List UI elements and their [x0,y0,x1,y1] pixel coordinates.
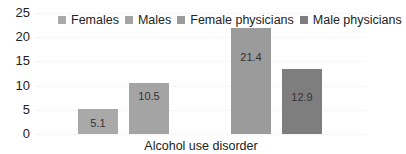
y-tick-15: 15 [0,54,30,68]
legend-label: Male physicians [313,13,402,27]
legend-item-male-physicians: Male physicians [300,13,402,27]
legend-item-females: Females [58,13,119,27]
legend-swatch [300,16,308,24]
gridline [36,134,366,135]
bar-male-physicians: 12.9 [282,69,322,134]
gridline [36,61,366,62]
gridline [36,37,366,38]
legend-label: Female physicians [190,13,294,27]
bar-value-label: 12.9 [282,91,322,103]
bar-value-label: 10.5 [129,90,169,102]
y-tick-5: 5 [0,103,30,117]
legend-item-female-physicians: Female physicians [177,13,294,27]
legend-swatch [125,16,133,24]
bar-value-label: 5.1 [78,117,118,129]
bar-female-physicians: 21.4 [231,28,271,134]
legend-label: Males [138,13,171,27]
bar-females: 5.1 [78,109,118,134]
bar-value-label: 21.4 [231,51,271,63]
legend-label: Females [71,13,119,27]
x-axis-label: Alcohol use disorder [36,139,366,153]
legend-swatch [177,16,185,24]
y-tick-10: 10 [0,79,30,93]
legend-swatch [58,16,66,24]
legend: Females Males Female physicians Male phy… [58,13,406,27]
y-tick-0: 0 [0,127,30,141]
legend-item-males: Males [125,13,171,27]
y-tick-25: 25 [0,6,30,20]
y-tick-20: 20 [0,30,30,44]
bar-males: 10.5 [129,83,169,134]
